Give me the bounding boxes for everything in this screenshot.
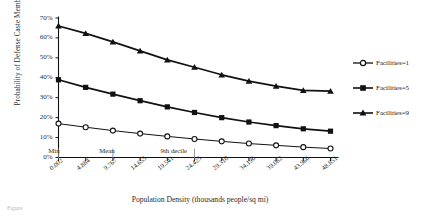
data-point (83, 85, 88, 90)
filled-square-marker-icon (352, 83, 374, 93)
data-point (192, 110, 197, 115)
y-tick-label: 30% (27, 93, 53, 101)
data-point (219, 139, 224, 144)
y-tick-label: 40% (27, 73, 53, 81)
series-layer (55, 23, 334, 151)
annotation-min: Min (48, 147, 59, 154)
data-point (274, 123, 279, 128)
data-point (165, 104, 170, 109)
annotation-mean: Mean (99, 147, 114, 154)
y-tick-label: 10% (27, 133, 53, 141)
open-circle-marker-icon (352, 58, 374, 68)
y-axis-title: Probability of Defense Caste Membership (14, 0, 22, 118)
data-point (165, 134, 170, 139)
legend-item-facilities-1[interactable]: Facilities=1 (352, 58, 409, 68)
y-tick-label: 20% (27, 113, 53, 121)
data-point (83, 125, 88, 130)
x-axis-title: Population Density (thousands people/sq … (60, 195, 340, 204)
data-point (219, 115, 224, 120)
y-tick-label: 60% (27, 33, 53, 41)
data-point (328, 146, 333, 151)
legend-item-facilities-9[interactable]: Facilities=9 (352, 108, 409, 118)
data-point (138, 98, 143, 103)
data-point (138, 131, 143, 136)
filled-triangle-marker-icon (352, 108, 374, 118)
series-facilities-9 (55, 23, 334, 94)
data-point (328, 129, 333, 134)
series-facilities-5 (56, 77, 333, 134)
y-tick-label: 50% (27, 53, 53, 61)
annotation-9th-decile: 9th decile (161, 147, 188, 154)
data-point (110, 128, 115, 133)
figure-caption: Figure (7, 205, 23, 211)
data-point (274, 143, 279, 148)
legend-item-facilities-5[interactable]: Facilities=5 (352, 83, 409, 93)
data-point (192, 136, 197, 141)
legend-label: Facilities=9 (376, 109, 409, 117)
legend-label: Facilities=1 (376, 59, 409, 67)
data-point (301, 145, 306, 150)
figure-container: Probability of Defense Caste Membership … (0, 0, 432, 217)
data-point (301, 126, 306, 131)
data-point (56, 121, 61, 126)
series-facilities-1 (56, 121, 333, 151)
y-tick-label: 70% (27, 14, 53, 22)
data-point (56, 77, 61, 82)
legend-label: Facilities=5 (376, 84, 409, 92)
data-point (246, 119, 251, 124)
y-tick-label: 0% (27, 153, 53, 161)
chart-legend: Facilities=1 Facilities=5 Facilities=9 (352, 58, 409, 118)
data-point (110, 92, 115, 97)
data-point (246, 141, 251, 146)
